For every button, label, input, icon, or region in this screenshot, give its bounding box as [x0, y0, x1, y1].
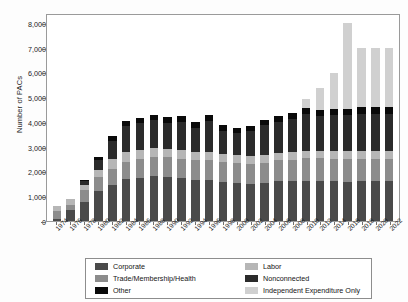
stacked-bar[interactable]	[316, 88, 325, 221]
bar-column[interactable]	[105, 15, 119, 221]
bar-segment[interactable]	[122, 162, 131, 179]
bar-segment[interactable]	[80, 190, 89, 201]
bar-column[interactable]	[368, 15, 382, 221]
bar-segment[interactable]	[246, 131, 255, 156]
bar-segment[interactable]	[108, 159, 117, 168]
legend-item[interactable]: Labor	[245, 262, 382, 271]
bar-segment[interactable]	[302, 151, 311, 158]
bar-segment[interactable]	[288, 119, 297, 152]
bar-segment[interactable]	[343, 182, 352, 221]
stacked-bar[interactable]	[53, 206, 62, 221]
legend-item[interactable]: Nonconnected	[245, 274, 382, 283]
stacked-bar[interactable]	[205, 115, 214, 221]
bar-segment[interactable]	[191, 128, 200, 152]
bar-column[interactable]	[50, 15, 64, 221]
bar-segment[interactable]	[163, 177, 172, 221]
stacked-bar[interactable]	[246, 126, 255, 221]
stacked-bar[interactable]	[288, 113, 297, 221]
bar-column[interactable]	[64, 15, 78, 221]
bar-segment[interactable]	[150, 176, 159, 221]
bar-segment[interactable]	[150, 120, 159, 148]
bar-segment[interactable]	[316, 181, 325, 221]
bar-segment[interactable]	[80, 202, 89, 221]
stacked-bar[interactable]	[108, 136, 117, 221]
bar-segment[interactable]	[302, 99, 311, 108]
stacked-bar[interactable]	[357, 48, 366, 221]
stacked-bar[interactable]	[330, 73, 339, 221]
bar-segment[interactable]	[94, 191, 103, 221]
bar-segment[interactable]	[108, 141, 117, 159]
bar-segment[interactable]	[343, 159, 352, 182]
bar-column[interactable]	[355, 15, 369, 221]
bar-segment[interactable]	[94, 160, 103, 169]
legend-item[interactable]: Corporate	[95, 262, 245, 271]
stacked-bar[interactable]	[385, 48, 394, 221]
bar-column[interactable]	[244, 15, 258, 221]
bar-segment[interactable]	[205, 160, 214, 180]
bar-segment[interactable]	[260, 155, 269, 163]
bar-column[interactable]	[230, 15, 244, 221]
bar-segment[interactable]	[163, 149, 172, 158]
bar-segment[interactable]	[108, 169, 117, 185]
bar-segment[interactable]	[163, 157, 172, 176]
bar-segment[interactable]	[274, 181, 283, 221]
stacked-bar[interactable]	[233, 128, 242, 221]
bar-segment[interactable]	[191, 180, 200, 221]
bar-segment[interactable]	[177, 150, 186, 159]
stacked-bar[interactable]	[80, 180, 89, 221]
bar-segment[interactable]	[371, 181, 380, 221]
bar-segment[interactable]	[150, 157, 159, 176]
bar-segment[interactable]	[260, 163, 269, 183]
bar-column[interactable]	[272, 15, 286, 221]
stacked-bar[interactable]	[136, 118, 145, 221]
bar-segment[interactable]	[343, 115, 352, 152]
bar-column[interactable]	[119, 15, 133, 221]
bar-segment[interactable]	[246, 164, 255, 184]
bar-segment[interactable]	[205, 121, 214, 152]
bar-segment[interactable]	[94, 170, 103, 177]
bar-column[interactable]	[313, 15, 327, 221]
bar-column[interactable]	[147, 15, 161, 221]
bar-segment[interactable]	[274, 160, 283, 181]
bar-segment[interactable]	[371, 159, 380, 182]
stacked-bar[interactable]	[94, 157, 103, 221]
bar-segment[interactable]	[385, 151, 394, 158]
bar-segment[interactable]	[136, 123, 145, 150]
bar-segment[interactable]	[330, 181, 339, 221]
stacked-bar[interactable]	[163, 117, 172, 221]
bar-segment[interactable]	[219, 154, 228, 162]
bar-segment[interactable]	[357, 181, 366, 221]
stacked-bar[interactable]	[150, 115, 159, 221]
bar-segment[interactable]	[385, 159, 394, 182]
bar-segment[interactable]	[357, 48, 366, 107]
bar-segment[interactable]	[357, 159, 366, 182]
bar-segment[interactable]	[302, 114, 311, 151]
bar-segment[interactable]	[371, 48, 380, 107]
bar-segment[interactable]	[343, 23, 352, 108]
bar-segment[interactable]	[330, 159, 339, 182]
bar-segment[interactable]	[288, 152, 297, 159]
bar-segment[interactable]	[177, 178, 186, 221]
bar-segment[interactable]	[53, 211, 62, 219]
stacked-bar[interactable]	[191, 122, 200, 221]
stacked-bar[interactable]	[274, 116, 283, 221]
bar-segment[interactable]	[302, 158, 311, 181]
bar-segment[interactable]	[233, 155, 242, 163]
legend-item[interactable]: Independent Expenditure Only	[245, 286, 382, 295]
stacked-bar[interactable]	[371, 48, 380, 221]
stacked-bar[interactable]	[122, 121, 131, 221]
bar-segment[interactable]	[122, 179, 131, 221]
bar-segment[interactable]	[205, 152, 214, 160]
bar-column[interactable]	[258, 15, 272, 221]
bar-segment[interactable]	[136, 178, 145, 221]
bar-segment[interactable]	[233, 183, 242, 221]
bar-segment[interactable]	[191, 160, 200, 180]
legend-item[interactable]: Other	[95, 286, 245, 295]
bar-segment[interactable]	[385, 48, 394, 107]
bar-segment[interactable]	[288, 181, 297, 221]
bar-segment[interactable]	[357, 114, 366, 152]
bar-segment[interactable]	[136, 159, 145, 177]
bar-column[interactable]	[202, 15, 216, 221]
bar-column[interactable]	[133, 15, 147, 221]
bar-column[interactable]	[327, 15, 341, 221]
